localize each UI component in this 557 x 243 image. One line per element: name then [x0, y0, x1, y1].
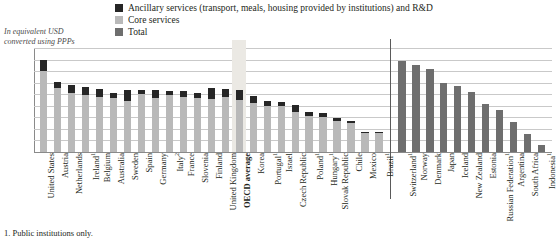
x-axis-label: Belgium: [103, 153, 112, 182]
bar: [510, 122, 517, 152]
x-axis-label: Ireland1: [89, 153, 101, 180]
chart-figure: Ancillary services (transport, meals, ho…: [0, 0, 557, 243]
bar-segment-core: [138, 94, 145, 152]
bar-segment-core: [347, 123, 354, 152]
bar-segment-total: [496, 110, 503, 152]
bar: [40, 60, 47, 152]
bar-segment-core: [96, 97, 103, 152]
x-axis-label: United States: [47, 153, 56, 199]
x-axis-label: Poland1: [313, 153, 325, 180]
bar: [538, 145, 545, 153]
bar-segment-core: [40, 71, 47, 152]
x-axis-label: Japan: [447, 153, 456, 172]
x-axis-label: Germany: [159, 153, 168, 185]
bar-segment-core: [333, 121, 340, 152]
bar: [440, 83, 447, 152]
bar: [278, 102, 285, 152]
bar: [110, 93, 117, 153]
bar: [482, 104, 489, 152]
bar-segment-total: [482, 104, 489, 152]
bar-segment-total: [510, 122, 517, 152]
legend-swatch-total: [115, 28, 123, 36]
bar: [222, 89, 229, 152]
x-axis-label: Portugal1: [271, 153, 283, 185]
bar: [305, 112, 312, 152]
x-axis-label: Slovak Republic: [341, 153, 350, 209]
x-axis-label: Netherlands: [75, 153, 84, 194]
bar-segment-core: [110, 98, 117, 152]
bar-segment-core: [236, 100, 243, 152]
bar-segment-ancillary: [222, 89, 229, 97]
bar: [236, 90, 243, 152]
bar: [194, 93, 201, 152]
bar: [426, 69, 433, 152]
bar-segment-ancillary: [68, 85, 75, 93]
x-axis-label: Finland: [215, 153, 224, 179]
x-axis-label: South Africa: [531, 153, 540, 196]
bar-segment-core: [82, 95, 89, 152]
bar-segment-core: [278, 106, 285, 152]
x-axis-label: Denmark: [434, 153, 443, 185]
bar-segment-ancillary: [236, 90, 243, 100]
bar: [333, 118, 340, 152]
bar: [398, 61, 405, 152]
x-axis-label: Argentina: [517, 153, 526, 187]
legend-label-core: Core services: [128, 15, 179, 25]
bar-segment-ancillary: [292, 105, 299, 113]
bar: [468, 92, 475, 152]
bar: [454, 86, 461, 152]
bar-segment-core: [305, 116, 312, 152]
bar: [496, 110, 503, 152]
bar-segment-total: [454, 86, 461, 152]
legend-item-ancillary: Ancillary services (transport, meals, ho…: [115, 2, 433, 13]
bar-segment-ancillary: [152, 90, 159, 99]
bar: [361, 132, 368, 152]
x-axis-label: Russian Federation1: [503, 153, 515, 221]
bar: [375, 132, 382, 152]
x-axis-label: Slovenia: [201, 153, 210, 183]
bar-segment-total: [524, 134, 531, 152]
legend-item-total: Total: [115, 26, 433, 37]
x-axis-label: Chile: [355, 153, 364, 171]
legend-label-total: Total: [128, 27, 147, 37]
bar: [68, 85, 75, 152]
bar: [292, 105, 299, 152]
x-axis-label: United Kingdom: [229, 153, 238, 210]
bar: [524, 134, 531, 152]
x-axis-label: Indonesia1: [545, 153, 557, 189]
bar-segment-core: [375, 133, 382, 152]
bar: [347, 121, 354, 152]
x-axis-label: Hungary1: [327, 153, 339, 186]
y-axis-caption: In equivalent USD converted using PPPs: [4, 27, 76, 46]
x-axis-label: Israel: [285, 153, 294, 172]
bar-segment-core: [68, 93, 75, 152]
bar-segment-ancillary: [96, 89, 103, 97]
x-axis-label: Estonia: [489, 153, 498, 179]
x-axis-label: Austria: [61, 153, 70, 178]
bar-segment-ancillary: [40, 60, 47, 71]
bar-segment-ancillary: [124, 90, 131, 101]
bar-segment-ancillary: [82, 87, 89, 95]
bar-segment-total: [412, 65, 419, 152]
bar-segment-core: [54, 88, 61, 152]
x-axis-label: New Zealand: [475, 153, 484, 199]
bar: [138, 90, 145, 152]
bar-segment-ancillary: [54, 82, 61, 89]
bar-segment-total: [468, 92, 475, 152]
bar: [96, 89, 103, 152]
bar: [54, 82, 61, 152]
bar-segment-core: [250, 103, 257, 152]
bar: [412, 65, 419, 152]
bar-segment-core: [292, 112, 299, 152]
bar-segment-total: [426, 69, 433, 152]
bar: [208, 88, 215, 152]
x-axis-label: Czech Republic: [299, 153, 308, 207]
bar: [82, 87, 89, 152]
bar: [166, 91, 173, 152]
x-axis-label: Australia: [117, 153, 126, 184]
x-axis-label: Italy2: [173, 153, 185, 172]
bar-segment-ancillary: [208, 88, 215, 99]
bar-segment-core: [222, 97, 229, 152]
x-axis-label: Spain: [145, 153, 154, 172]
bar-segment-core: [180, 97, 187, 152]
